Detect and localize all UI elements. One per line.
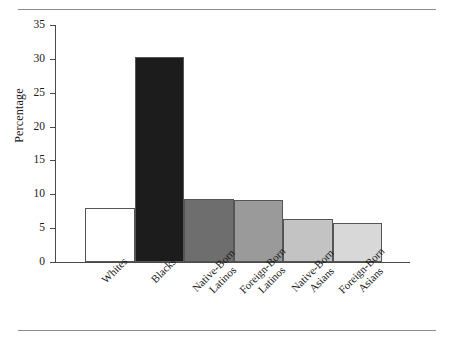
y-tick-mark <box>50 194 55 195</box>
y-tick-mark <box>50 127 55 128</box>
y-tick-mark <box>50 25 55 26</box>
bar-slot <box>234 25 284 262</box>
plot-area: Percentage 05101520253035 WhitesBlacksNa… <box>0 0 454 344</box>
bar-slot <box>85 25 135 262</box>
y-tick-label: 30 <box>1 53 45 65</box>
y-tick-mark <box>50 93 55 94</box>
y-tick-label: 10 <box>1 188 45 200</box>
y-axis-line <box>55 25 56 263</box>
y-tick-mark <box>50 262 55 263</box>
bar <box>85 208 135 262</box>
y-tick-label: 20 <box>1 121 45 133</box>
figure: Percentage 05101520253035 WhitesBlacksNa… <box>0 0 454 344</box>
y-tick-mark <box>50 228 55 229</box>
y-tick-mark <box>50 160 55 161</box>
y-tick-label: 0 <box>1 256 45 268</box>
bar-slot <box>333 25 383 262</box>
y-tick-label: 15 <box>1 154 45 166</box>
y-tick-mark <box>50 59 55 60</box>
bar <box>135 57 185 262</box>
x-axis-labels: WhitesBlacksNative-BornLatinosForeign-Bo… <box>85 264 382 334</box>
bar-slot <box>184 25 234 262</box>
bar-slot <box>283 25 333 262</box>
y-tick-label: 35 <box>1 19 45 31</box>
y-tick-label: 25 <box>1 87 45 99</box>
bar-slot <box>135 25 185 262</box>
bar-series <box>85 25 382 262</box>
y-tick-label: 5 <box>1 222 45 234</box>
